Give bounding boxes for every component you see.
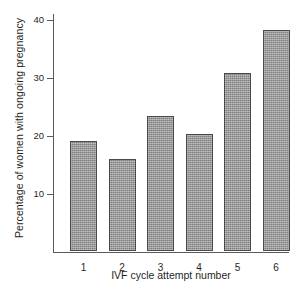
plot-area: 10203040123456: [53, 14, 288, 252]
bar: [263, 30, 290, 251]
bar: [224, 73, 251, 251]
y-axis-tick: 30: [47, 78, 53, 79]
y-axis-tick-label: 20: [33, 130, 44, 141]
y-axis-tick-label: 10: [33, 188, 44, 199]
y-axis-title: Percentage of women with ongoing pregnan…: [13, 13, 25, 243]
y-axis-tick-label: 40: [33, 14, 44, 25]
y-axis-tick: 40: [47, 20, 53, 21]
bar: [109, 159, 136, 251]
bar-chart: Percentage of women with ongoing pregnan…: [0, 0, 291, 299]
bar: [147, 116, 174, 251]
y-axis-line: [53, 14, 54, 253]
y-axis-tick: 20: [47, 136, 53, 137]
bar: [186, 134, 213, 251]
y-axis-tick: 10: [47, 194, 53, 195]
y-axis-tick-label: 30: [33, 72, 44, 83]
x-axis-title: IVF cycle attempt number: [53, 269, 289, 281]
x-axis-line: [53, 252, 289, 253]
bar: [70, 141, 97, 251]
